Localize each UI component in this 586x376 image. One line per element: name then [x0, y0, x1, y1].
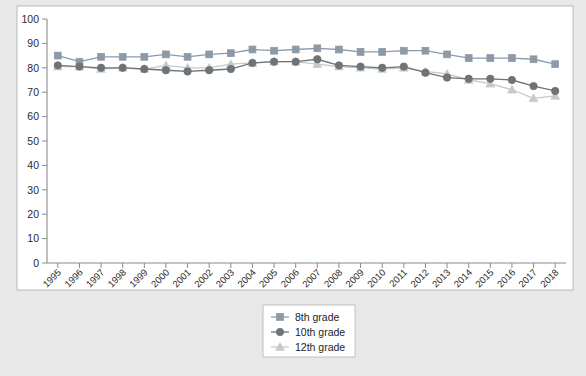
legend-label-3[interactable]: 12th grade: [295, 341, 345, 353]
data-point-square: [400, 47, 407, 54]
data-point-circle: [487, 75, 494, 82]
data-point-square: [487, 55, 494, 62]
y-axis-tick-label: 30: [27, 184, 39, 196]
y-axis-tick-label: 80: [27, 62, 39, 74]
data-point-square: [292, 46, 299, 53]
data-point-square: [141, 53, 148, 60]
data-point-circle: [292, 58, 299, 65]
chart-container: 0102030405060708090100 19951996199719981…: [0, 0, 586, 376]
y-axis-tick-label: 100: [21, 13, 39, 25]
data-point-square: [509, 55, 516, 62]
data-point-square: [379, 49, 386, 56]
data-point-square: [119, 53, 126, 60]
data-point-circle: [357, 63, 364, 70]
data-point-square: [227, 50, 234, 57]
data-point-square: [530, 56, 537, 63]
data-point-circle: [335, 62, 342, 69]
data-point-circle: [276, 328, 283, 335]
data-point-circle: [314, 56, 321, 63]
data-point-square: [184, 53, 191, 60]
data-point-square: [163, 51, 170, 58]
data-point-square: [552, 61, 559, 68]
data-point-square: [336, 46, 343, 53]
data-point-circle: [205, 67, 212, 74]
data-point-circle: [465, 75, 472, 82]
line-chart: 0102030405060708090100 19951996199719981…: [0, 0, 586, 376]
data-point-square: [357, 49, 364, 56]
data-point-square: [98, 53, 105, 60]
data-point-circle: [162, 67, 169, 74]
y-axis-tick-label: 0: [33, 257, 39, 269]
data-point-circle: [76, 63, 83, 70]
data-point-square: [444, 51, 451, 58]
y-axis-tick-label: 90: [27, 37, 39, 49]
data-point-circle: [443, 74, 450, 81]
legend-label-2[interactable]: 10th grade: [295, 326, 345, 338]
data-point-circle: [530, 82, 537, 89]
data-point-circle: [270, 58, 277, 65]
y-axis-tick-label: 20: [27, 208, 39, 220]
data-point-square: [422, 47, 429, 54]
y-axis-tick-label: 60: [27, 110, 39, 122]
data-point-square: [206, 51, 213, 58]
data-point-square: [314, 45, 321, 52]
data-point-circle: [400, 63, 407, 70]
data-point-square: [271, 47, 278, 54]
data-point-circle: [508, 76, 515, 83]
data-point-circle: [54, 62, 61, 69]
data-point-circle: [378, 64, 385, 71]
chart-legend: 8th grade10th grade12th grade: [263, 305, 355, 357]
data-point-square: [249, 46, 256, 53]
data-point-circle: [97, 64, 104, 71]
legend-label-1[interactable]: 8th grade: [295, 311, 340, 323]
data-point-circle: [422, 69, 429, 76]
data-point-circle: [184, 68, 191, 75]
data-point-square: [465, 55, 472, 62]
y-axis-tick-label: 50: [27, 135, 39, 147]
y-axis-tick-label: 10: [27, 232, 39, 244]
data-point-square: [54, 52, 61, 59]
data-point-square: [277, 314, 284, 321]
data-point-circle: [119, 64, 126, 71]
y-axis-tick-label: 70: [27, 86, 39, 98]
y-axis-tick-label: 40: [27, 159, 39, 171]
data-point-circle: [141, 65, 148, 72]
data-point-circle: [249, 59, 256, 66]
data-point-circle: [551, 87, 558, 94]
data-point-circle: [227, 65, 234, 72]
